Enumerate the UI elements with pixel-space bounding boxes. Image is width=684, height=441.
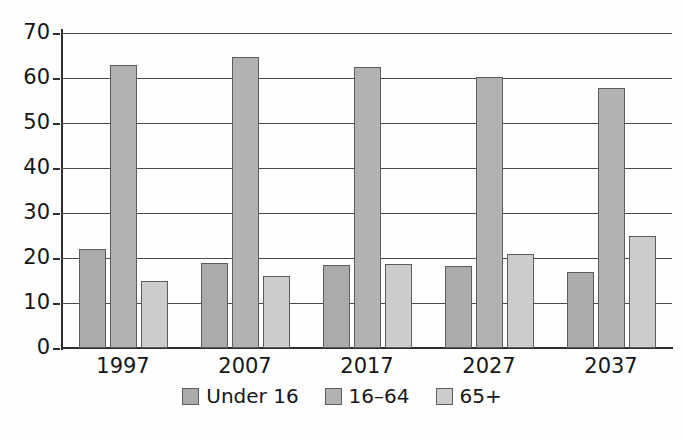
- bar-1997-65+: [141, 281, 168, 348]
- bar-2017-16–64: [354, 67, 381, 348]
- y-tick-mark-10: [53, 303, 60, 305]
- bar-2027-65+: [507, 254, 534, 349]
- y-tick-label-0: 0: [10, 337, 50, 358]
- y-tick-label-20: 20: [10, 247, 50, 268]
- legend-swatch-icon: [325, 388, 342, 405]
- bar-1997-16–64: [110, 65, 137, 349]
- x-tick-label-2037: 2037: [566, 355, 656, 377]
- bar-2037-16–64: [598, 88, 625, 348]
- legend-label: Under 16: [206, 386, 298, 406]
- y-tick-label-50: 50: [10, 112, 50, 133]
- bar-chart: 706050403020100 19972007201720272037 Und…: [0, 0, 684, 441]
- x-tick-label-1997: 1997: [78, 355, 168, 377]
- y-tick-label-30: 30: [10, 202, 50, 223]
- chart-legend: Under 1616–6465+: [0, 386, 684, 406]
- legend-label: 65+: [460, 386, 502, 406]
- legend-swatch-icon: [436, 388, 453, 405]
- y-tick-label-40: 40: [10, 157, 50, 178]
- y-tick-label-10: 10: [10, 292, 50, 313]
- y-tick-mark-60: [53, 78, 60, 80]
- bar-2007-16–64: [232, 57, 259, 348]
- legend-entry-65+: 65+: [436, 386, 502, 406]
- gridline-70: [62, 33, 672, 34]
- bar-2017-65+: [385, 264, 412, 348]
- bar-2037-under-16: [567, 272, 594, 348]
- y-tick-mark-0: [53, 348, 60, 350]
- y-tick-label-70: 70: [10, 22, 50, 43]
- legend-entry-16–64: 16–64: [325, 386, 410, 406]
- bar-2027-under-16: [445, 266, 472, 348]
- legend-swatch-icon: [182, 388, 199, 405]
- y-tick-mark-30: [53, 213, 60, 215]
- bar-1997-under-16: [79, 249, 106, 348]
- bar-2007-under-16: [201, 263, 228, 349]
- y-tick-mark-50: [53, 123, 60, 125]
- legend-entry-under-16: Under 16: [182, 386, 298, 406]
- bar-2007-65+: [263, 276, 290, 348]
- bar-2017-under-16: [323, 265, 350, 348]
- y-tick-mark-40: [53, 168, 60, 170]
- bar-2027-16–64: [476, 77, 503, 348]
- bar-2037-65+: [629, 236, 656, 348]
- legend-label: 16–64: [349, 386, 410, 406]
- x-tick-label-2007: 2007: [200, 355, 290, 377]
- y-tick-mark-70: [53, 33, 60, 35]
- x-tick-label-2027: 2027: [444, 355, 534, 377]
- plot-area: [62, 31, 672, 348]
- x-tick-label-2017: 2017: [322, 355, 412, 377]
- y-tick-mark-20: [53, 258, 60, 260]
- y-tick-label-60: 60: [10, 67, 50, 88]
